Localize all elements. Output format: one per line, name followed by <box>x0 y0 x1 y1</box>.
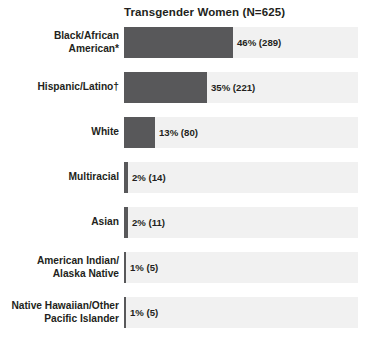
bar <box>124 72 207 103</box>
bar <box>124 297 126 328</box>
bar <box>124 27 233 58</box>
bar-value-label: 1% (5) <box>130 252 158 283</box>
category-label: Black/African American* <box>7 27 119 58</box>
chart-row: Hispanic/Latino† 35% (221) <box>0 72 372 117</box>
bar-value-label: 35% (221) <box>211 72 255 103</box>
bar <box>124 207 128 238</box>
bar-value-label: 46% (289) <box>237 27 281 58</box>
chart-row: Black/African American* 46% (289) <box>0 27 372 72</box>
category-label: Asian <box>7 207 119 238</box>
chart-row: Native Hawaiian/Other Pacific Islander 1… <box>0 297 372 342</box>
category-label: Hispanic/Latino† <box>7 72 119 103</box>
bar-value-label: 2% (14) <box>132 162 166 193</box>
category-label: Multiracial <box>7 162 119 193</box>
bar-value-label: 1% (5) <box>130 297 158 328</box>
chart-rows: Black/African American* 46% (289) Hispan… <box>0 27 372 342</box>
bar <box>124 252 126 283</box>
chart-row: Multiracial 2% (14) <box>0 162 372 207</box>
bar-value-label: 13% (80) <box>159 117 198 148</box>
bar <box>124 162 128 193</box>
chart-title: Transgender Women (N=625) <box>124 6 285 18</box>
bar-value-label: 2% (11) <box>132 207 165 238</box>
bar-track <box>124 297 358 328</box>
chart-row: American Indian/ Alaska Native 1% (5) <box>0 252 372 297</box>
chart-row: White 13% (80) <box>0 117 372 162</box>
category-label: American Indian/ Alaska Native <box>7 252 119 283</box>
bar-track <box>124 252 358 283</box>
category-label: Native Hawaiian/Other Pacific Islander <box>7 297 119 328</box>
category-label: White <box>7 117 119 148</box>
chart-row: Asian 2% (11) <box>0 207 372 252</box>
bar <box>124 117 155 148</box>
bar-chart: Transgender Women (N=625) Black/African … <box>0 0 372 356</box>
